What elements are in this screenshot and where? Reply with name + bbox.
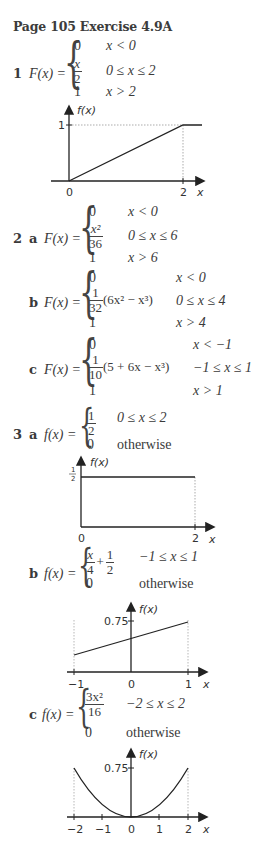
q1-lhs: F(x) = xyxy=(29,66,66,82)
q3c-label: c xyxy=(29,707,37,722)
q2a-case-1-expr: x²36 xyxy=(88,222,103,250)
q3c-graph: 0.75 −2 −1 0 1 2 x f(x) xyxy=(0,745,265,843)
q3c-case-1-cond: otherwise xyxy=(126,725,180,741)
q3c-lhs: f(x) = xyxy=(42,707,74,723)
q3b-den: 4 xyxy=(86,563,95,577)
cdf-line xyxy=(69,125,202,181)
q2b-tail: (6x² − x³) xyxy=(103,292,153,307)
q2c-case-1-cond: −1 ≤ x ≤ 1 xyxy=(193,360,252,376)
q3a-case-1-cond: otherwise xyxy=(117,437,171,453)
q2a-label: a xyxy=(29,231,37,246)
q3c-case-0-expr: 3x²16 xyxy=(85,690,104,718)
q2b-case-0-expr: 0 xyxy=(89,270,96,286)
q2a-lhs: F(x) = xyxy=(44,231,81,247)
y-tick-1: 1 xyxy=(58,119,65,132)
q2c-case-1-expr: 110(5 + 6x − x³) xyxy=(88,353,169,381)
q3c-den: 16 xyxy=(85,705,104,719)
q1-num: x xyxy=(73,57,82,72)
q2c-den: 10 xyxy=(88,368,103,382)
x-tick-2: 2 xyxy=(180,186,187,199)
q2a-num: x² xyxy=(88,222,103,237)
q3a-num: 1 xyxy=(87,409,96,424)
q3b-label: b xyxy=(29,566,38,581)
question-number-1: 1 xyxy=(13,66,22,81)
y-tick-075: 0.75 xyxy=(104,615,129,628)
x-label: x xyxy=(196,186,204,199)
q1-case-1-expr: x2 xyxy=(73,57,82,85)
x-tick-neg2: −2 xyxy=(67,823,83,836)
q2b-lhs: F(x) = xyxy=(44,295,81,311)
q1-case-0-expr: 0 xyxy=(74,38,81,54)
x-label: x xyxy=(208,533,216,545)
q2b-den: 32 xyxy=(88,301,103,315)
q2c-tail: (5 + 6x − x³) xyxy=(103,359,169,374)
q1-lhs-text: F(x) = xyxy=(29,66,66,81)
q2c-case-0-cond: x < −1 xyxy=(193,337,232,353)
q3b-den2: 2 xyxy=(106,563,115,577)
q3c-num: 3x² xyxy=(85,690,104,705)
q3b-graph: 0.75 −1 0 1 x f(x) xyxy=(0,600,265,688)
q2a-case-2-cond: x > 6 xyxy=(128,250,158,266)
q3b-case-1-expr: 0 xyxy=(86,576,93,592)
q2c-label: c xyxy=(29,362,37,377)
y-label: f(x) xyxy=(90,456,109,469)
y-tick-num: 1 xyxy=(71,466,75,474)
q3b-num2: 1 xyxy=(106,548,115,563)
q3b-case-0-cond: −1 ≤ x ≤ 1 xyxy=(139,549,198,565)
q2b-case-2-cond: x > 4 xyxy=(176,315,206,331)
q2c-lhs: F(x) = xyxy=(44,362,81,378)
q1-case-2-expr: 1 xyxy=(74,84,81,100)
y-tick-075: 0.75 xyxy=(104,762,129,775)
q3a-graph: 1 2 0 2 x f(x) xyxy=(0,455,265,545)
x-tick-1: 1 xyxy=(185,678,192,688)
q2a-den: 36 xyxy=(88,237,103,251)
y-tick-den: 2 xyxy=(71,475,75,483)
q1-graph: 1 0 2 x f(x) xyxy=(0,100,265,200)
q3b-num: x xyxy=(86,548,95,563)
q3a-den: 2 xyxy=(87,424,96,438)
q2c-case-0-expr: 0 xyxy=(89,337,96,353)
q2b-num: 1 xyxy=(88,286,103,301)
q2a-case-1-cond: 0 ≤ x ≤ 6 xyxy=(128,228,178,244)
q3a-case-0-expr: 12 xyxy=(87,409,96,437)
q3c-case-1-expr: 0 xyxy=(85,725,92,741)
q3b-plus: + xyxy=(95,554,106,569)
q2b-case-1-expr: 132(6x² − x³) xyxy=(88,286,153,314)
x-tick-2: 2 xyxy=(185,823,192,836)
q3c-case-0-cond: −2 ≤ x ≤ 2 xyxy=(126,696,185,712)
q3b-case-1-cond: otherwise xyxy=(139,576,193,592)
q2c-case-2-cond: x > 1 xyxy=(193,383,223,399)
q2b-case-0-cond: x < 0 xyxy=(176,270,206,286)
x-tick-0: 0 xyxy=(128,678,135,688)
q1-case-2-cond: x > 2 xyxy=(106,84,136,100)
q3a-case-0-cond: 0 ≤ x ≤ 2 xyxy=(117,410,167,426)
x-tick-1: 1 xyxy=(156,823,163,836)
q2c-num: 1 xyxy=(88,353,103,368)
x-tick-neg1: −1 xyxy=(95,823,111,836)
q3a-case-1-expr: 0 xyxy=(87,437,94,453)
question-number-3: 3 xyxy=(13,427,22,442)
y-label: f(x) xyxy=(139,603,158,616)
q1-case-1-cond: 0 ≤ x ≤ 2 xyxy=(106,63,156,79)
x-tick-0: 0 xyxy=(66,186,73,199)
q2b-case-1-cond: 0 ≤ x ≤ 4 xyxy=(176,293,226,309)
y-label: f(x) xyxy=(139,748,158,761)
q2b-label: b xyxy=(29,295,38,310)
page-title: Page 105 Exercise 4.9A xyxy=(13,19,172,34)
x-tick-0: 0 xyxy=(128,823,135,836)
q2a-case-0-expr: 0 xyxy=(89,204,96,220)
q1-case-0-cond: x < 0 xyxy=(106,38,136,54)
q3a-label: a xyxy=(29,427,37,442)
q3a-lhs: f(x) = xyxy=(44,427,76,443)
y-label: f(x) xyxy=(77,104,96,117)
question-number-2: 2 xyxy=(13,231,22,246)
q3b-case-0-expr: x4+12 xyxy=(86,548,114,576)
q2a-case-0-cond: x < 0 xyxy=(128,204,158,220)
q2c-case-2-expr: 1 xyxy=(89,383,96,399)
x-label: x xyxy=(202,823,210,836)
x-tick-2: 2 xyxy=(192,532,199,545)
x-label: x xyxy=(202,678,210,688)
q3b-lhs: f(x) = xyxy=(44,566,76,582)
